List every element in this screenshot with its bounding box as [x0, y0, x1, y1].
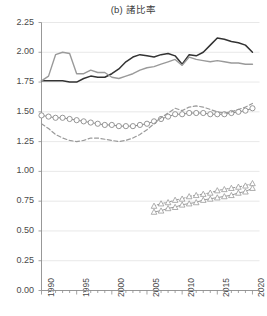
- marker-circle: [250, 106, 255, 111]
- marker-circle: [109, 122, 114, 127]
- marker-circle: [144, 121, 149, 126]
- marker-circle: [74, 118, 79, 123]
- marker-triangle: [151, 203, 157, 208]
- marker-circle: [208, 112, 213, 117]
- marker-circle: [67, 116, 72, 121]
- marker-circle: [187, 110, 192, 115]
- marker-triangle: [165, 200, 171, 205]
- marker-triangle: [215, 188, 221, 193]
- marker-triangle: [243, 189, 249, 194]
- marker-circle: [116, 124, 121, 129]
- marker-circle: [180, 112, 185, 117]
- marker-circle: [194, 110, 199, 115]
- marker-circle: [102, 122, 107, 127]
- marker-circle: [60, 115, 65, 120]
- plot-area: [0, 0, 267, 316]
- marker-circle: [173, 112, 178, 117]
- series-dark-solid: [42, 38, 253, 82]
- marker-circle: [95, 121, 100, 126]
- data-series-layer: [39, 38, 255, 214]
- marker-circle: [46, 114, 51, 119]
- marker-circle: [39, 113, 44, 118]
- marker-circle: [53, 115, 58, 120]
- marker-circle: [123, 124, 128, 129]
- x-minor-ticks: [42, 291, 260, 295]
- marker-circle: [243, 108, 248, 113]
- marker-triangle: [207, 190, 213, 195]
- marker-circle: [81, 119, 86, 124]
- marker-circle: [130, 124, 135, 129]
- chart-figure: (b) 諸比率 0.000.250.500.751.001.251.501.75…: [0, 0, 267, 316]
- marker-circle: [88, 120, 93, 125]
- marker-circle: [201, 110, 206, 115]
- marker-circle: [137, 122, 142, 127]
